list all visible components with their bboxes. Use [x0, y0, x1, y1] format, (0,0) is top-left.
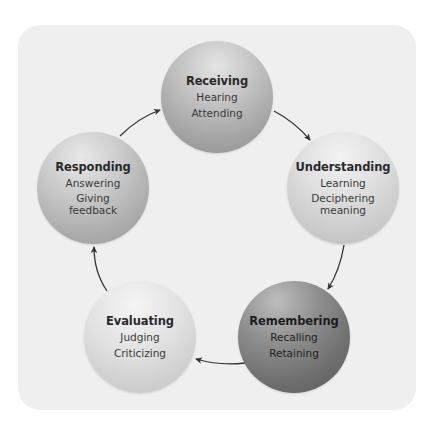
node-responding: Responding Answering Giving feedback — [37, 132, 149, 244]
node-title: Understanding — [296, 160, 391, 175]
node-remembering: Remembering Recalling Retaining — [238, 281, 350, 393]
node-item: Judging — [120, 330, 159, 344]
arrow-understanding-to-remembering — [328, 245, 344, 289]
node-item: Giving feedback — [69, 192, 117, 216]
arrow-evaluating-to-responding — [94, 247, 107, 291]
node-item-part: Giving — [69, 192, 117, 204]
node-item-part: meaning — [311, 204, 375, 216]
node-item: Attending — [191, 106, 242, 120]
node-item: Retaining — [269, 346, 319, 360]
node-item: Hearing — [196, 90, 237, 104]
node-understanding: Understanding Learning Deciphering meani… — [287, 132, 399, 244]
node-item-part: feedback — [69, 204, 117, 216]
node-evaluating: Evaluating Judging Criticizing — [84, 281, 196, 393]
arrow-remembering-to-evaluating — [196, 359, 245, 364]
node-title: Responding — [55, 160, 130, 175]
node-title: Remembering — [249, 314, 338, 329]
node-title: Receiving — [186, 74, 248, 89]
node-item: Criticizing — [114, 346, 166, 360]
node-receiving: Receiving Hearing Attending — [161, 41, 273, 153]
node-title: Evaluating — [106, 314, 174, 329]
node-item: Learning — [320, 176, 366, 190]
node-item: Deciphering meaning — [311, 192, 375, 216]
arrow-receiving-to-understanding — [274, 111, 310, 140]
node-item-part: Deciphering — [311, 192, 375, 204]
node-item: Answering — [66, 176, 121, 190]
arrow-responding-to-receiving — [120, 110, 160, 136]
node-item: Recalling — [270, 330, 318, 344]
